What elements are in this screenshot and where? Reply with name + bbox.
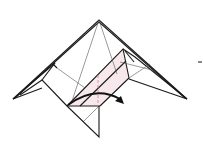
origami-diagram (0, 0, 203, 152)
side-mark (198, 61, 202, 63)
bottom-triangle (67, 106, 100, 137)
left-flap (20, 63, 67, 106)
